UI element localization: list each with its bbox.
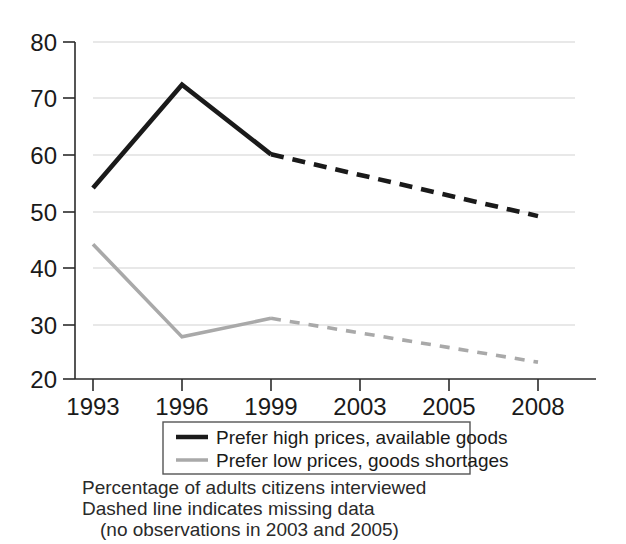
x-tick-label-2003: 2003 [333, 393, 386, 420]
caption-line-1: Percentage of adults citizens interviewe… [82, 477, 426, 498]
chart-container: 80 70 60 50 40 30 20 1993 1996 1999 2003… [0, 0, 626, 544]
x-tick-label-1993: 1993 [66, 393, 119, 420]
x-tick-label-2008: 2008 [511, 393, 564, 420]
y-tick-label-40: 40 [30, 255, 57, 282]
y-tick-label-50: 50 [30, 199, 57, 226]
caption-line-3: (no observations in 2003 and 2005) [100, 519, 399, 540]
legend-label-high-prices: Prefer high prices, available goods [216, 427, 508, 448]
legend: Prefer high prices, available goods Pref… [163, 422, 509, 474]
x-tick-label-1999: 1999 [244, 393, 297, 420]
caption-line-2: Dashed line indicates missing data [82, 498, 375, 519]
y-tick-label-60: 60 [30, 142, 57, 169]
y-tick-label-70: 70 [30, 85, 57, 112]
x-tick-label-1996: 1996 [155, 393, 208, 420]
y-tick-label-30: 30 [30, 312, 57, 339]
x-tick-label-2005: 2005 [422, 393, 475, 420]
legend-label-low-prices: Prefer low prices, goods shortages [216, 450, 509, 471]
y-tick-label-80: 80 [30, 29, 57, 56]
line-chart: 80 70 60 50 40 30 20 1993 1996 1999 2003… [0, 0, 626, 544]
y-tick-label-20: 20 [30, 366, 57, 393]
